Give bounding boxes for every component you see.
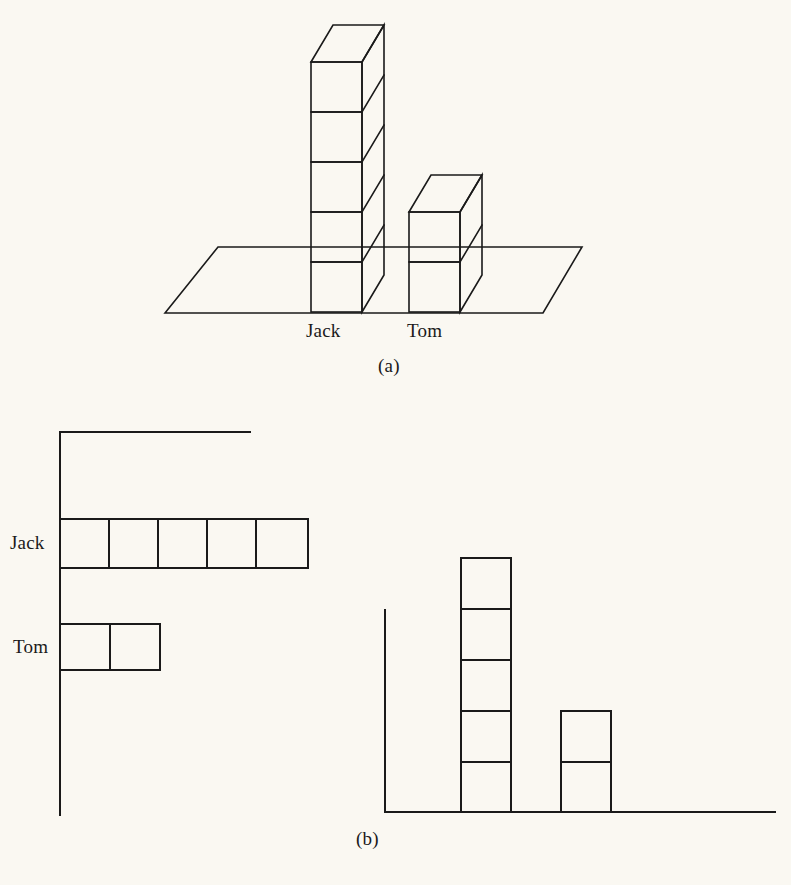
label-jack-panel-a: Jack (306, 320, 341, 342)
bar-unit-cell (461, 609, 511, 660)
bar-unit-cell (109, 519, 158, 568)
caption-panel-a: (a) (378, 355, 400, 377)
ground-plane (165, 247, 582, 313)
label-jack-panel-b: Jack (10, 532, 45, 554)
cube-side-edge (362, 225, 384, 262)
cube-front-face (311, 112, 362, 162)
bar-unit-cell (461, 711, 511, 762)
bar-unit-cell (256, 519, 308, 568)
cube-front-face (311, 62, 362, 112)
bar-tom-horizontal (60, 624, 160, 670)
cube-front-face (409, 212, 460, 262)
cube-side-edge (362, 75, 384, 112)
bar-unit-cell (207, 519, 256, 568)
cube-front-face (311, 212, 362, 262)
cube-front-face (311, 162, 362, 212)
cube-front-face (409, 262, 460, 312)
bar-unit-cell (461, 762, 511, 812)
bar-unit-cell (561, 762, 611, 812)
bar-jack-vertical (461, 558, 511, 812)
cube-stack-tom (409, 175, 482, 312)
horizontal-bar-chart (60, 432, 308, 815)
cube-side-edge (362, 125, 384, 162)
cube-stack-jack (311, 25, 384, 312)
bar-unit-cell (110, 624, 160, 670)
cube-right-face (362, 25, 384, 312)
bar-unit-cell (461, 558, 511, 609)
bar-unit-cell (60, 519, 109, 568)
label-tom-panel-b: Tom (13, 636, 48, 658)
bar-unit-cell (461, 660, 511, 711)
panel-a-isometric-diagram (0, 0, 791, 400)
cube-side-edge (362, 175, 384, 212)
bar-unit-cell (60, 624, 110, 670)
figure-page: Jack Tom (a) (0, 0, 791, 885)
vertical-bar-chart (385, 558, 775, 812)
bar-jack-horizontal (60, 519, 308, 568)
caption-panel-b: (b) (356, 828, 379, 850)
bar-unit-cell (158, 519, 207, 568)
panel-b-charts (0, 430, 791, 885)
bar-tom-vertical (561, 711, 611, 812)
cube-front-face (311, 262, 362, 312)
bar-unit-cell (561, 711, 611, 762)
cube-side-edge (460, 225, 482, 262)
label-tom-panel-a: Tom (407, 320, 442, 342)
